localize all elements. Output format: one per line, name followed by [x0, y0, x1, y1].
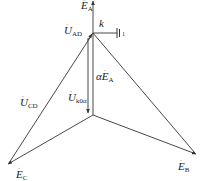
- dot-E-C: ·: [18, 166, 20, 172]
- ground-icon: [117, 28, 120, 38]
- phasor-E-B: [93, 115, 196, 154]
- dot-U-CD: ·: [22, 94, 24, 100]
- dot-alpha-E-A: ·: [104, 68, 106, 74]
- label-k: k: [99, 17, 105, 29]
- dot-E-A: ·: [83, 0, 85, 4]
- label-E-A: EA: [80, 0, 93, 13]
- line-k-to-B: [93, 33, 195, 153]
- label-E-B: EB: [177, 160, 190, 174]
- label-E-C: EC: [15, 168, 28, 181]
- dot-E-B: ·: [180, 158, 182, 164]
- dot-U-k0a: ·: [70, 89, 72, 95]
- phasor-U-AD: [88, 34, 92, 40]
- label-ground-1: 1: [122, 31, 125, 37]
- phasor-diagram: EA · UAD · k 1 αEA · UCD · Uk0α · EC · E…: [0, 0, 202, 181]
- phasor-E-C: [8, 115, 93, 164]
- dot-U-AD: ·: [66, 22, 68, 28]
